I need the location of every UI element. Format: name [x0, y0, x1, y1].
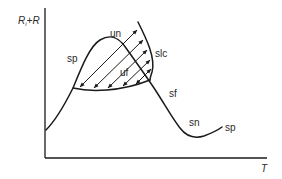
x-axis-label: T — [261, 163, 268, 174]
label-sf: sf — [169, 88, 177, 99]
phase-diagram: Ri+R T sp un slc uf sf sn sp — [0, 0, 282, 179]
label-sp-right: sp — [225, 122, 236, 133]
tie-arrow-1 — [80, 30, 137, 87]
y-axis-label-main: R — [18, 15, 25, 26]
label-un: un — [110, 28, 121, 39]
label-uf: uf — [120, 67, 129, 78]
tie-arrow-2 — [94, 40, 143, 88]
label-slc: slc — [155, 48, 167, 59]
label-sp-left: sp — [67, 53, 78, 64]
y-axis-label: Ri+R — [18, 15, 40, 27]
label-sn: sn — [189, 117, 200, 128]
y-axis-label-rest: +R — [27, 15, 40, 26]
